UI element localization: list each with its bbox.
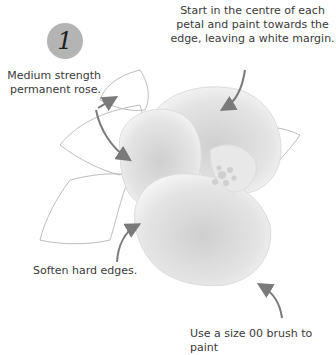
caption-centre-petal: Start in the centre of each petal and pa… xyxy=(170,4,335,46)
caption-rose-colour: Medium strength permanent rose. xyxy=(1,69,101,97)
arrow-soften xyxy=(117,226,136,262)
caption-brush: Use a size 00 brush to paint xyxy=(190,327,336,355)
caption-soften: Soften hard edges. xyxy=(33,264,137,278)
arrow-brush xyxy=(262,286,282,318)
rose-petals xyxy=(119,87,281,286)
step-number-badge: 1 xyxy=(47,23,83,59)
step-number: 1 xyxy=(57,29,72,53)
